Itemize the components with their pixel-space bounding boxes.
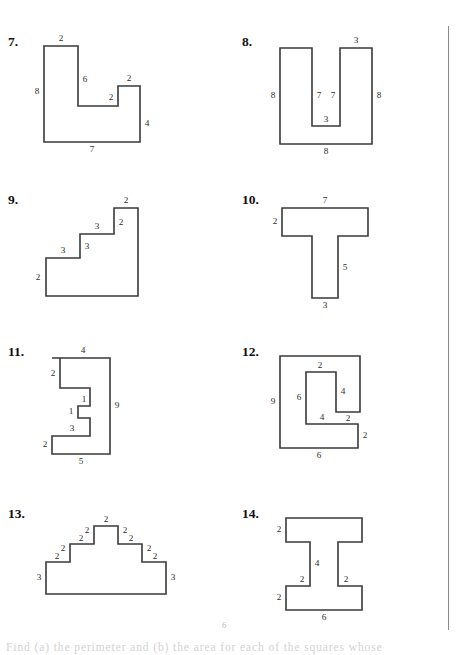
dimension-label: 2	[277, 592, 282, 602]
dimension-label: 3	[70, 423, 75, 433]
problem-number: 11.	[8, 344, 24, 360]
shape-svg: 42119325	[28, 344, 148, 464]
dimension-label: 8	[35, 86, 40, 96]
dimension-label: 9	[115, 400, 120, 410]
dimension-label: 3	[171, 572, 176, 582]
dimension-label: 4	[341, 386, 346, 396]
problem-number: 14.	[242, 506, 259, 522]
dimension-label: 1	[69, 406, 74, 416]
dimension-label: 2	[318, 360, 323, 370]
dimension-label: 2	[127, 73, 132, 83]
problem-number: 8.	[242, 34, 252, 50]
shape-outline	[52, 358, 110, 454]
dimension-label: 2	[123, 525, 128, 535]
figure-i-beam-shape: 242226	[262, 506, 382, 626]
dimension-label: 2	[85, 525, 90, 535]
dimension-label: 7	[90, 144, 95, 154]
dimension-label: 3	[95, 221, 100, 231]
dimension-label: 6	[297, 392, 302, 402]
shape-svg: 96242426	[262, 344, 382, 464]
figure-staircase-three-steps: 233322	[28, 192, 148, 312]
shape-svg: 242226	[262, 506, 382, 626]
figure-t-shape: 7253	[262, 192, 382, 312]
problem-number: 9.	[8, 192, 18, 208]
dimension-label: 2	[43, 439, 48, 449]
dimension-label: 2	[55, 551, 60, 561]
dimension-label: 2	[346, 413, 351, 423]
dimension-label: 4	[145, 118, 150, 128]
dimension-label: 8	[377, 90, 382, 100]
dimension-label: 3	[37, 572, 42, 582]
dimension-label: 2	[79, 533, 84, 543]
dimension-label: 7	[331, 90, 336, 100]
dimension-label: 1	[82, 394, 87, 404]
dimension-label: 8	[324, 146, 329, 156]
dimension-label: 7	[323, 195, 328, 205]
dimension-label: 2	[129, 533, 134, 543]
dimension-label: 2	[109, 92, 114, 102]
dimension-label: 4	[81, 345, 86, 355]
dimension-label: 3	[324, 114, 329, 124]
shape-svg: 3877838	[262, 34, 382, 154]
dimension-label: 7	[317, 90, 322, 100]
shape-svg: 2862247	[28, 34, 148, 154]
dimension-label: 2	[363, 430, 368, 440]
dimension-label: 2	[61, 543, 66, 553]
dimension-label: 5	[79, 456, 84, 466]
shape-svg: 22222222233	[28, 506, 178, 606]
dimension-label: 6	[317, 450, 322, 460]
dimension-label: 2	[119, 217, 124, 227]
dimension-label: 2	[300, 574, 305, 584]
dimension-label: 4	[320, 412, 325, 422]
figure-u-shape: 3877838	[262, 34, 382, 154]
shape-outline	[46, 526, 166, 594]
shape-svg: 233322	[28, 192, 148, 312]
problem-number: 10.	[242, 192, 259, 208]
dimension-label: 3	[323, 300, 328, 310]
dimension-label: 3	[85, 241, 90, 251]
dimension-label: 3	[61, 245, 66, 255]
dimension-label: 2	[273, 216, 278, 226]
dimension-label: 6	[83, 74, 88, 84]
problem-grid: 7.28622478.38778389.23332210.725311.4211…	[0, 0, 468, 630]
figure-c-shape-with-notch: 96242426	[262, 344, 382, 464]
problem-number: 12.	[242, 344, 259, 360]
problem-number: 7.	[8, 34, 18, 50]
dimension-label: 2	[59, 33, 64, 43]
shape-outline	[282, 208, 368, 298]
dimension-label: 2	[104, 514, 109, 524]
right-margin-rule	[448, 26, 449, 630]
figure-l-shape-with-notch: 2862247	[28, 34, 148, 154]
shape-outline	[286, 518, 362, 610]
page-number: 6	[0, 620, 448, 630]
dimension-label: 3	[354, 35, 359, 45]
dimension-label: 2	[344, 574, 349, 584]
dimension-label: 9	[271, 396, 276, 406]
dimension-label: 2	[153, 551, 158, 561]
dimension-label: 2	[147, 543, 152, 553]
problem-number: 13.	[8, 506, 25, 522]
worksheet-page: 7.28622478.38778389.23332210.725311.4211…	[0, 0, 468, 655]
figure-zigzag-e-shape: 42119325	[28, 344, 148, 464]
dimension-label: 2	[51, 368, 56, 378]
dimension-label: 4	[315, 558, 320, 568]
figure-stepped-pyramid: 22222222233	[28, 506, 178, 606]
shape-outline	[44, 46, 140, 142]
shape-outline	[280, 48, 372, 144]
dimension-label: 2	[124, 195, 129, 205]
dimension-label: 2	[36, 272, 41, 282]
shape-svg: 7253	[262, 192, 382, 312]
dimension-label: 2	[277, 524, 282, 534]
footer-instruction-text: Find (a) the perimeter and (b) the area …	[6, 641, 446, 655]
dimension-label: 8	[271, 90, 276, 100]
dimension-label: 5	[343, 262, 348, 272]
